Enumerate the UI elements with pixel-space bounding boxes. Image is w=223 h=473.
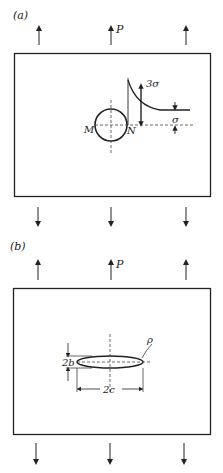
figure-a-label: (a) [13,9,28,22]
point-n-label: N [126,125,137,136]
figure-b-label: (b) [10,240,26,253]
radius-leader [142,344,152,358]
plate [14,289,211,435]
radius-label: ρ [146,334,153,345]
peak-stress-label: 3σ [146,78,160,89]
figure-b: (b) P 2b 2c ρ [10,240,211,462]
figure-canvas: (a) P 3σ σ M N (b) [0,0,223,473]
bottom-load-arrows [36,443,184,462]
point-m-label: M [83,124,95,135]
load-label: P [115,258,124,271]
top-load-arrows [39,28,186,45]
top-load-arrows [38,262,186,280]
far-stress-label: σ [172,114,180,125]
width-label: 2c [102,384,115,395]
bottom-load-arrows [38,207,186,224]
figure-a: (a) P 3σ σ M N [13,9,211,224]
height-label: 2b [61,357,75,368]
load-label: P [115,23,124,36]
